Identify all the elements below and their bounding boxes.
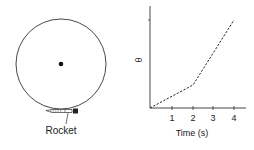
rocket-icon [46,109,78,114]
circular-orbit-diagram: Rocket [16,19,106,136]
x-tick-label-1: 1 [169,113,174,123]
rocket-label: Rocket [45,125,76,136]
x-tick-label-4: 4 [231,113,236,123]
theta-line [150,20,234,108]
x-tick-label-3: 3 [210,113,215,123]
theta-time-chart: 1 2 3 4 Time (s) θ [134,6,246,138]
center-dot [59,62,64,67]
x-axis-label: Time (s) [176,128,209,138]
y-axis-label: θ [134,57,144,62]
figure-canvas: Rocket 1 2 3 4 Time (s) θ [0,0,254,150]
x-tick-label-2: 2 [190,113,195,123]
rocket-pointer-line [66,113,68,124]
